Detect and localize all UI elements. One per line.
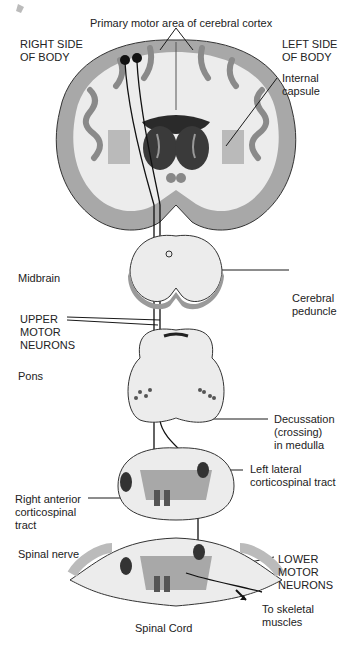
label-spinal-nerve: Spinal nerve [18, 548, 79, 561]
medulla-section [118, 448, 234, 520]
label-spinal-cord: Spinal Cord [135, 622, 192, 635]
spinal-cord-section [70, 538, 282, 606]
label-lower-motor-neurons: LOWER MOTOR NEURONS [278, 553, 333, 592]
corner-mark-icon [16, 4, 24, 13]
label-decussation: Decussation (crossing) in medulla [274, 413, 335, 452]
label-cerebral-peduncle: Cerebral peduncle [292, 292, 337, 318]
label-primary-motor-area: Primary motor area of cerebral cortex [90, 17, 272, 30]
label-pons: Pons [18, 370, 43, 383]
label-midbrain: Midbrain [18, 272, 60, 285]
label-right-anterior-tract: Right anterior corticospinal tract [15, 493, 81, 532]
label-upper-motor-neurons: UPPER MOTOR NEURONS [20, 313, 75, 352]
label-right-side-of-body: RIGHT SIDE OF BODY [20, 38, 83, 64]
midbrain-section [128, 235, 224, 309]
label-left-side-of-body: LEFT SIDE OF BODY [282, 38, 337, 64]
label-internal-capsule: Internal capsule [282, 72, 320, 98]
pons-section [128, 329, 224, 422]
label-left-lateral-tract: Left lateral corticospinal tract [250, 463, 336, 489]
label-to-skeletal-muscles: To skeletal muscles [262, 603, 314, 629]
brain-coronal-section [56, 40, 296, 230]
